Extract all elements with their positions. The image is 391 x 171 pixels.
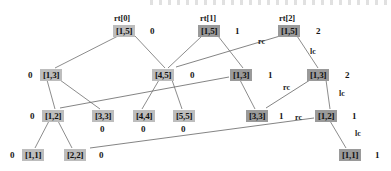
edge-r0n0-r1n0 [55,36,118,68]
edge-label-e-rc-root: rc [258,38,265,46]
tree-node-r0n2: [1,5] [278,25,300,37]
version-number-v-r1n3: 2 [345,70,350,80]
root-pointer-label-rt1: rt[1] [200,14,216,23]
edge-layer [0,0,391,171]
version-number-v-r3n1: 0 [99,150,104,160]
tree-node-r2n0: [1,2] [42,110,64,122]
edge-r0n0-r1n1 [135,36,165,68]
edge-r1n2-r2n0-rc [60,77,229,108]
edge-label-e-lc-root: lc [310,48,316,56]
version-number-v-r2n3: 0 [181,124,186,134]
edge-r2n5-r3n2-lc [330,121,346,148]
version-number-v-r1n0: 0 [28,70,33,80]
tree-node-r3n0: [1,1] [22,149,44,161]
version-number-v-r2n2: 0 [141,124,146,134]
edge-r0n1-r1n1 [168,36,202,68]
edge-r1n0-r2n0 [47,80,55,109]
tree-node-r2n4: [3,3] [246,110,268,122]
version-number-v-r2n4: 1 [279,111,284,121]
root-pointer-label-rt0: rt[0] [114,14,130,23]
edge-r2n0-r3n1 [58,121,72,148]
edge-r1n3-r2n5-lc [326,80,330,109]
version-number-v-r0n1: 1 [235,26,240,36]
tree-node-r1n2: [1,3] [230,69,252,81]
tree-node-r2n5: [1,2] [315,110,337,122]
version-number-v-r0n2: 2 [316,26,321,36]
version-number-v-r2n5: 1 [352,111,357,121]
tree-node-r2n2: [4,4] [133,110,155,122]
version-number-v-r2n1: 0 [100,124,105,134]
edge-r1n1-r2n2 [142,80,159,109]
tree-node-r1n1: [4,5] [152,69,174,81]
edge-r2n5-r3n1-rc [90,118,314,148]
edge-label-e-lc-low: lc [355,130,361,138]
edge-r0n1-r1n2 [218,36,243,68]
diagram-canvas: rt[0]rt[1]rt[2][1,5][1,5][1,5][1,3][4,5]… [0,0,391,171]
tree-node-r2n3: [5,5] [173,110,195,122]
edge-r1n2-r2n4 [240,80,255,109]
tree-node-r1n0: [1,3] [40,69,62,81]
edge-r2n0-r3n0 [35,121,49,148]
version-number-v-r2n0: 0 [30,111,35,121]
tree-node-r2n1: [3,3] [92,110,114,122]
tree-node-r3n2: [1,1] [339,149,361,161]
edge-label-e-lc-mid: lc [339,90,345,98]
tree-node-r0n1: [1,5] [198,25,220,37]
version-number-v-r3n2: 1 [375,150,380,160]
edge-r1n1-r2n3 [172,80,182,109]
version-number-v-r0n0: 0 [150,26,155,36]
edge-label-e-rc-low: rc [295,114,302,122]
version-number-v-r3n0: 0 [10,150,15,160]
tree-node-r1n3: [1,3] [307,69,329,81]
tree-node-r3n1: [2,2] [64,149,86,161]
version-number-v-r1n2: 1 [268,70,273,80]
root-pointer-label-rt2: rt[2] [279,14,295,23]
version-number-v-r1n1: 0 [190,70,195,80]
tree-node-r0n0: [1,5] [113,25,135,37]
edge-label-e-rc-mid: rc [283,84,290,92]
